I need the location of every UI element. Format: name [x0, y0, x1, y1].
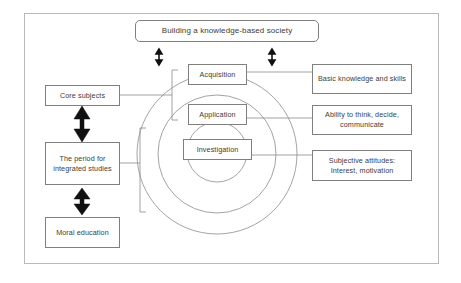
box-application: Application [188, 104, 247, 125]
box-investigation: Investigation [183, 139, 252, 160]
box-ability-to-think: Ability to think, decide, communicate [312, 105, 412, 135]
title-box: Building a knowledge-based society [135, 20, 319, 42]
box-moral-education: Moral education [45, 217, 120, 248]
box-core-subjects: Core subjects [45, 85, 120, 106]
box-basic-knowledge: Basic knowledge and skills [312, 64, 412, 94]
box-acquisition: Acquisition [188, 64, 247, 85]
box-integrated-studies: The period for integrated studies [45, 142, 120, 185]
box-subjective-attitudes: Subjective attitudes: Interest, motivati… [312, 150, 412, 181]
diagram-canvas: Building a knowledge-based society Core … [0, 0, 461, 283]
